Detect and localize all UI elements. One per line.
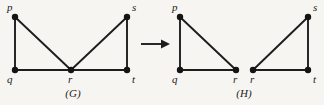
vertex-label-s: s [132,1,136,13]
vertex-h-p [177,14,183,20]
graph-h-labels: p q r r s t [171,1,317,85]
graph-g-vertices [12,14,130,73]
vertex-label-h-s: s [313,1,317,13]
vertex-h-q [177,67,183,73]
edge-r-s [71,17,127,70]
vertex-h-t [305,67,311,73]
graph-h-edges [180,17,308,70]
vertex-q [12,67,18,73]
vertex-s [124,14,130,20]
graph-g-caption: (G) [65,87,81,100]
vertex-label-t: t [132,73,136,85]
vertex-label-p: p [6,1,13,13]
graph-h-vertices [177,14,311,73]
graph-g-edges [15,17,127,70]
vertex-p [12,14,18,20]
vertex-t [124,67,130,73]
graph-h-caption: (H) [236,87,252,100]
graph-g-labels: p q r s t [6,1,136,85]
vertex-h-s [305,14,311,20]
edge-h-r2-s [253,17,308,70]
edge-h-p-r1 [180,17,236,70]
arrow-head [161,40,170,49]
vertex-label-h-t: t [313,73,317,85]
graph-h: p q r r s t (H) [171,1,317,100]
vertex-label-h-q: q [172,73,178,85]
edge-p-r [15,17,71,70]
graph-g: p q r s t (G) [6,1,136,100]
graph-canvas: p q r s t (G) [0,0,324,105]
vertex-label-h-r1: r [233,73,238,85]
vertex-label-h-p: p [171,1,178,13]
vertex-label-r: r [68,73,73,85]
vertex-label-q: q [7,73,13,85]
graph-figure: p q r s t (G) [0,0,324,105]
vertex-label-h-r2: r [250,73,255,85]
transform-arrow-icon [141,40,170,49]
